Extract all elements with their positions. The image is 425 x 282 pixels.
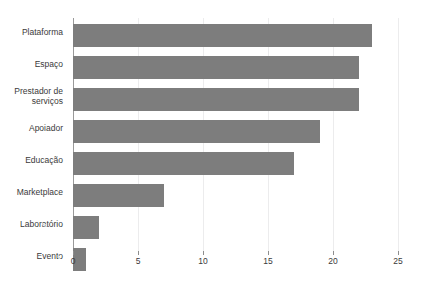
bar-apoiador[interactable]	[73, 120, 320, 143]
tick-label-10: 10	[198, 256, 207, 266]
bar-prestador-de-servicos[interactable]	[73, 88, 359, 111]
tick-label-20: 20	[328, 256, 337, 266]
bar-value-apoiador: 19	[0, 120, 68, 143]
bar-value-prestador-de-servicos: 22	[0, 88, 68, 111]
tick-mark-0	[73, 251, 74, 255]
bar-value-educacao: 17	[0, 152, 68, 175]
tick-mark-15	[268, 251, 269, 255]
bar-series: 23 22 22 19 17 7 2 1	[73, 18, 398, 251]
bar-marketplace[interactable]	[73, 184, 164, 207]
bar-value-marketplace: 7	[0, 184, 68, 207]
bar-espaco[interactable]	[73, 56, 359, 79]
tick-label-15: 15	[263, 256, 272, 266]
bar-educacao[interactable]	[73, 152, 294, 175]
tick-mark-20	[333, 251, 334, 255]
bar-value-plataforma: 23	[0, 24, 68, 47]
tick-label-5: 5	[136, 256, 141, 266]
tick-mark-10	[203, 251, 204, 255]
tick-label-25: 25	[393, 256, 402, 266]
value-axis-labels: 0 5 10 15 20 25	[0, 256, 425, 272]
bar-plataforma[interactable]	[73, 24, 372, 47]
bar-value-laboratorio: 2	[42, 216, 68, 239]
tick-mark-5	[138, 251, 139, 255]
bar-laboratorio[interactable]	[73, 216, 99, 239]
tick-mark-25	[398, 251, 399, 255]
tick-label-0: 0	[71, 256, 76, 266]
bar-chart: Plataforma Espaço Prestador de serviços …	[0, 0, 425, 282]
gridline-25	[398, 18, 399, 251]
bar-value-espaco: 22	[0, 56, 68, 79]
